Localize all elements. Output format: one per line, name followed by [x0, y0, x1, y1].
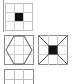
grid-plain-icon — [4, 69, 34, 84]
grid-center-square-icon — [5, 3, 33, 31]
answer-option-2[interactable] — [38, 35, 68, 65]
question-tile — [5, 3, 33, 31]
answer-option-3[interactable] — [4, 69, 34, 84]
grid-hexagon-icon — [4, 35, 34, 65]
panel-left-border — [3, 0, 4, 32]
answer-option-1[interactable] — [4, 35, 34, 65]
grid-center-square-diagonals-icon — [38, 35, 68, 65]
